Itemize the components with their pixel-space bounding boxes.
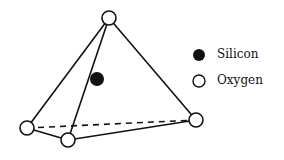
oxygen-atom-left (20, 121, 34, 135)
oxygen-atom-right (189, 113, 203, 127)
legend-label-oxygen: Oxygen (217, 73, 263, 87)
legend-silicon-icon (193, 49, 205, 61)
legend-oxygen-icon (193, 75, 205, 87)
legend-label-silicon: Silicon (217, 47, 258, 61)
silicon-atom (90, 72, 104, 86)
edge-bottom-right (68, 120, 196, 140)
edge-top-right (109, 18, 196, 120)
oxygen-atom-top (102, 11, 116, 25)
oxygen-atom-bottom (61, 133, 75, 147)
